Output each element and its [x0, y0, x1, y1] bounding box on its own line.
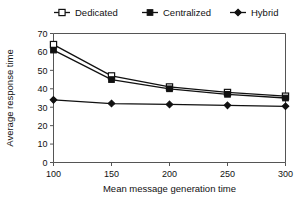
y-tick-label: 40 — [37, 84, 47, 94]
legend-label-dedicated: Dedicated — [75, 7, 118, 18]
marker-centralized-2 — [167, 86, 173, 92]
legend-marker-centralized — [147, 10, 153, 16]
marker-hybrid-4 — [282, 103, 289, 110]
x-tick-label: 100 — [46, 169, 61, 179]
marker-centralized-3 — [225, 92, 231, 98]
y-tick-label: 20 — [37, 121, 47, 131]
legend-label-centralized: Centralized — [163, 7, 211, 18]
marker-hybrid-0 — [50, 97, 57, 104]
y-axis-title: Average response time — [4, 49, 15, 147]
y-tick-label: 0 — [42, 158, 47, 168]
y-tick-label: 50 — [37, 66, 47, 76]
legend-label-hybrid: Hybrid — [251, 7, 278, 18]
marker-hybrid-3 — [224, 102, 231, 109]
chart-container: 010203040506070100150200250300Mean messa… — [0, 0, 308, 204]
marker-dedicated-0 — [50, 41, 56, 47]
marker-centralized-1 — [109, 77, 115, 83]
marker-hybrid-2 — [166, 101, 173, 108]
legend-marker-dedicated — [59, 9, 65, 15]
marker-centralized-4 — [283, 95, 289, 101]
marker-hybrid-1 — [108, 100, 115, 107]
y-tick-label: 70 — [37, 29, 47, 39]
marker-centralized-0 — [51, 47, 57, 53]
y-tick-label: 10 — [37, 139, 47, 149]
x-tick-label: 300 — [278, 169, 293, 179]
x-tick-label: 200 — [162, 169, 177, 179]
legend-marker-hybrid — [235, 9, 242, 16]
y-tick-label: 60 — [37, 47, 47, 57]
y-tick-label: 30 — [37, 103, 47, 113]
x-tick-label: 150 — [104, 169, 119, 179]
response-time-line-chart: 010203040506070100150200250300Mean messa… — [0, 0, 308, 204]
x-axis-title: Mean message generation time — [103, 183, 236, 194]
x-tick-label: 250 — [220, 169, 235, 179]
